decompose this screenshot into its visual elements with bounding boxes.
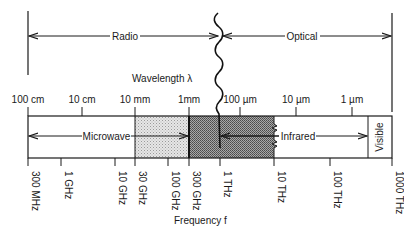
frequency-ticks xyxy=(28,158,392,166)
wavelength-tick-label: 10 mm xyxy=(120,94,151,105)
em-spectrum-diagram: Radio Optical Wavelength λ 100 cm 10 cm … xyxy=(0,0,404,235)
frequency-tick-label: 10 GHz xyxy=(117,171,128,205)
radio-span-arrow: Radio xyxy=(29,31,218,42)
frequency-tick-label: 1 THz xyxy=(222,171,233,198)
optical-span-arrow: Optical xyxy=(223,31,391,42)
wavelength-ticks xyxy=(28,107,352,116)
wavelength-tick-label: 10 cm xyxy=(68,94,95,105)
frequency-tick-labels: 300 MHz 1 GHz 10 GHz 30 GHz 100 GHz 300 … xyxy=(30,171,404,214)
wavelength-tick-label: 100 cm xyxy=(12,94,45,105)
frequency-tick-label: 100 GHz xyxy=(170,171,181,210)
frequency-tick-label: 1000 THz xyxy=(394,171,404,214)
wavelength-tick-label: 100 µm xyxy=(223,94,257,105)
millimeter-wave-shaded-region xyxy=(135,116,189,158)
frequency-tick-label: 1 GHz xyxy=(63,171,74,199)
wavelength-tick-label: 1 µm xyxy=(341,94,363,105)
frequency-tick-label: 30 GHz xyxy=(137,171,148,205)
microwave-label: Microwave xyxy=(83,131,131,142)
infrared-label: Infrared xyxy=(281,131,315,142)
frequency-tick-label: 300 MHz xyxy=(30,171,41,211)
submillimeter-shaded-region xyxy=(189,116,277,158)
visible-label: Visible xyxy=(374,122,385,152)
radio-label: Radio xyxy=(112,31,139,42)
wavelength-tick-label: 1mm xyxy=(178,94,200,105)
wavelength-tick-labels: 100 cm 10 cm 10 mm 1mm 100 µm 10 µm 1 µm xyxy=(12,94,364,105)
wavelength-tick-label: 10 µm xyxy=(282,94,310,105)
optical-label: Optical xyxy=(286,31,317,42)
frequency-tick-label: 10 THz xyxy=(276,171,287,203)
frequency-axis-label: Frequency f xyxy=(174,215,227,226)
frequency-tick-label: 300 GHz xyxy=(191,171,202,210)
wavelength-axis-label: Wavelength λ xyxy=(132,73,192,84)
frequency-tick-label: 100 THz xyxy=(332,171,343,209)
